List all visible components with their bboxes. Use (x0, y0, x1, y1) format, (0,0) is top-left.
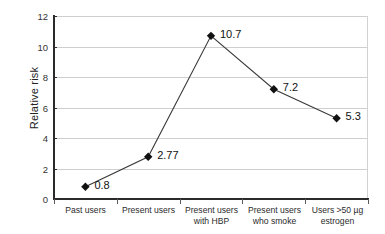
point-value-label: 2.77 (157, 149, 178, 161)
relative-risk-line-chart: Relative risk 024681012 0.82.7710.77.25.… (0, 0, 385, 234)
x-category-label-line1: Past users (65, 205, 106, 215)
x-category-label: Present userswith HBP (180, 205, 243, 233)
x-category-label-line2: with HBP (180, 216, 243, 227)
x-category-label-line1: Present users (122, 205, 175, 215)
x-category-label-line2: who smoke (243, 216, 306, 227)
data-series (0, 0, 385, 234)
x-axis-category-labels: Past usersPresent usersPresent userswith… (54, 205, 369, 233)
point-value-label: 0.8 (94, 179, 109, 191)
series-markers (81, 32, 341, 191)
data-point-marker (332, 114, 340, 122)
point-value-label: 10.7 (220, 28, 241, 40)
x-category-label: Present users (117, 205, 180, 233)
point-value-label: 5.3 (346, 110, 361, 122)
x-category-label-line2: estrogen (306, 216, 369, 227)
data-point-marker (81, 183, 89, 191)
data-point-marker (144, 153, 152, 161)
x-category-label-line1: Present users (185, 205, 238, 215)
point-value-label: 7.2 (283, 81, 298, 93)
x-category-label-line1: Users >50 µg (312, 205, 364, 215)
x-category-label: Past users (54, 205, 117, 233)
series-line (85, 36, 336, 187)
x-category-label-line1: Present users (248, 205, 301, 215)
x-category-label: Present userswho smoke (243, 205, 306, 233)
x-category-label: Users >50 µgestrogen (306, 205, 369, 233)
